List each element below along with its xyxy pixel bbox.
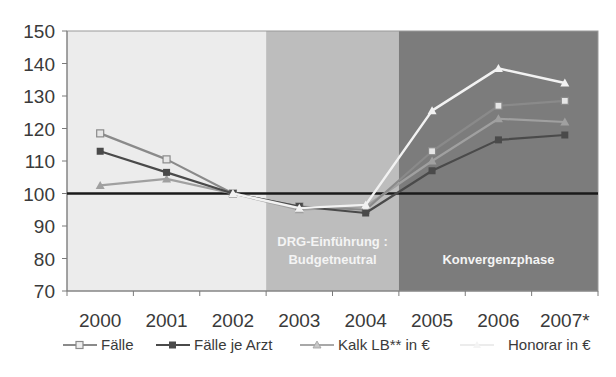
data-point [429, 148, 436, 155]
y-axis: 708090100110120130140150 [23, 21, 67, 302]
y-tick-label: 150 [23, 21, 55, 42]
y-tick-label: 90 [34, 216, 55, 237]
y-tick-label: 80 [34, 249, 55, 270]
x-axis: 20002001200220032004200520062007* [67, 291, 598, 331]
data-point [495, 102, 502, 109]
x-tick-label: 2001 [145, 310, 187, 331]
legend-label: Honorar in € [508, 336, 591, 353]
legend-item-kalk-lb: Kalk LB** in € [300, 336, 430, 353]
x-tick-label: 2003 [278, 310, 320, 331]
data-point [97, 130, 104, 137]
data-point [561, 97, 568, 104]
y-tick-label: 140 [23, 54, 55, 75]
x-tick-label: 2000 [79, 310, 121, 331]
y-tick-label: 70 [34, 281, 55, 302]
legend-label: Fälle [101, 336, 134, 353]
data-point [163, 169, 170, 176]
x-tick-label: 2005 [411, 310, 453, 331]
data-point [561, 132, 568, 139]
open-square-marker-icon [63, 339, 97, 351]
data-point [362, 210, 369, 217]
x-tick-label: 2002 [212, 310, 254, 331]
data-point [495, 136, 502, 143]
triangle-marker-icon [300, 339, 334, 351]
legend-item-honorar: Honorar in € [460, 336, 591, 353]
x-tick-label: 2004 [345, 310, 388, 331]
legend-item-faelle-je-arzt: Fälle je Arzt [156, 336, 272, 353]
legend-label: Fälle je Arzt [194, 336, 272, 353]
x-tick-label: 2006 [477, 310, 519, 331]
triangle-marker-icon [460, 339, 494, 351]
region-label: Konvergenzphase [442, 252, 554, 267]
data-point [97, 148, 104, 155]
legend-item-faelle: Fälle [63, 336, 134, 353]
y-tick-label: 110 [25, 151, 55, 172]
x-tick-label: 2007* [540, 310, 590, 331]
y-tick-label: 120 [23, 119, 55, 140]
legend: Fälle Fälle je Arzt Kalk LB** in € Honor… [0, 336, 616, 360]
region-label: Budgetneutral [288, 252, 376, 267]
y-tick-label: 130 [23, 86, 55, 107]
region-label: DRG-Einführung : [277, 234, 387, 249]
data-point [429, 167, 436, 174]
line-chart: 708090100110120130140150 200020012002200… [0, 0, 616, 377]
data-point [163, 156, 170, 163]
filled-square-marker-icon [156, 339, 190, 351]
legend-label: Kalk LB** in € [338, 336, 430, 353]
y-tick-label: 100 [23, 184, 55, 205]
